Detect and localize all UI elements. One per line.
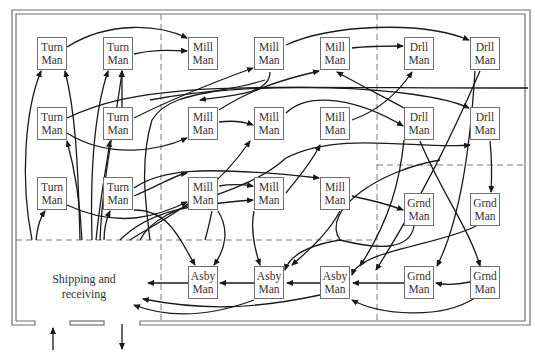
machine-type-label: Turn xyxy=(107,111,129,124)
machine-operator-label: Man xyxy=(258,194,279,207)
machine-type-label: Mill xyxy=(193,181,213,194)
machine-box-t6: TurnMan xyxy=(103,177,133,210)
machine-type-label: Asby xyxy=(323,270,347,283)
machine-box-m8: MillMan xyxy=(254,177,284,210)
shipping-receiving-label-line1: Shipping and xyxy=(52,272,116,286)
machine-operator-label: Man xyxy=(324,54,345,67)
machine-box-m7: MillMan xyxy=(188,177,218,210)
machine-type-label: Asby xyxy=(191,270,215,283)
machine-operator-label: Man xyxy=(258,124,279,137)
machine-type-label: Drll xyxy=(476,41,495,54)
machine-box-m6: MillMan xyxy=(320,107,350,140)
machine-operator-label: Man xyxy=(41,54,62,67)
dock-arrows xyxy=(53,324,122,350)
machine-operator-label: Man xyxy=(408,124,429,137)
machine-box-d2: DrllMan xyxy=(470,37,500,70)
machine-box-t1: TurnMan xyxy=(37,37,67,70)
machine-type-label: Turn xyxy=(107,181,129,194)
machine-box-t2: TurnMan xyxy=(103,37,133,70)
machine-box-d4: DrllMan xyxy=(470,107,500,140)
machine-type-label: Mill xyxy=(325,111,345,124)
machine-type-label: Mill xyxy=(325,181,345,194)
machine-type-label: Grnd xyxy=(407,197,431,210)
machine-box-t4: TurnMan xyxy=(103,107,133,140)
machine-box-a3: AsbyMan xyxy=(320,266,350,299)
machine-operator-label: Man xyxy=(107,54,128,67)
machine-box-g2: GrndMan xyxy=(470,193,500,226)
machine-box-g1: GrndMan xyxy=(404,193,434,226)
machine-operator-label: Man xyxy=(324,124,345,137)
machine-box-g4: GrndMan xyxy=(470,266,500,299)
machine-type-label: Drll xyxy=(476,111,495,124)
machine-box-m2: MillMan xyxy=(254,37,284,70)
machine-operator-label: Man xyxy=(474,54,495,67)
machine-type-label: Mill xyxy=(193,41,213,54)
machine-operator-label: Man xyxy=(474,283,495,296)
machine-box-m1: MillMan xyxy=(188,37,218,70)
machine-operator-label: Man xyxy=(324,283,345,296)
shipping-receiving-label-line2: receiving xyxy=(62,287,107,301)
machine-type-label: Turn xyxy=(41,111,63,124)
machine-type-label: Turn xyxy=(41,41,63,54)
machine-type-label: Mill xyxy=(259,41,279,54)
machine-operator-label: Man xyxy=(192,124,213,137)
machine-box-a2: AsbyMan xyxy=(254,266,284,299)
machine-type-label: Drll xyxy=(410,41,429,54)
machine-type-label: Grnd xyxy=(407,270,431,283)
machine-box-d3: DrllMan xyxy=(404,107,434,140)
machine-type-label: Mill xyxy=(325,41,345,54)
machine-operator-label: Man xyxy=(408,210,429,223)
machine-type-label: Turn xyxy=(107,41,129,54)
machine-operator-label: Man xyxy=(324,194,345,207)
machine-type-label: Grnd xyxy=(473,197,497,210)
machine-box-t3: TurnMan xyxy=(37,107,67,140)
machine-operator-label: Man xyxy=(474,124,495,137)
machine-operator-label: Man xyxy=(408,283,429,296)
machine-type-label: Drll xyxy=(410,111,429,124)
machine-operator-label: Man xyxy=(258,283,279,296)
machine-operator-label: Man xyxy=(107,124,128,137)
machine-box-t5: TurnMan xyxy=(37,177,67,210)
machine-operator-label: Man xyxy=(41,194,62,207)
machine-box-d1: DrllMan xyxy=(404,37,434,70)
machine-operator-label: Man xyxy=(192,283,213,296)
machine-box-m9: MillMan xyxy=(320,177,350,210)
machine-type-label: Mill xyxy=(193,111,213,124)
machine-type-label: Mill xyxy=(259,111,279,124)
machine-box-m5: MillMan xyxy=(254,107,284,140)
machine-operator-label: Man xyxy=(408,54,429,67)
machine-type-label: Mill xyxy=(259,181,279,194)
machine-operator-label: Man xyxy=(474,210,495,223)
machine-box-a1: AsbyMan xyxy=(188,266,218,299)
machine-operator-label: Man xyxy=(192,54,213,67)
machine-operator-label: Man xyxy=(107,194,128,207)
machine-box-g3: GrndMan xyxy=(404,266,434,299)
machine-type-label: Turn xyxy=(41,181,63,194)
machine-box-m4: MillMan xyxy=(188,107,218,140)
machine-operator-label: Man xyxy=(41,124,62,137)
machine-type-label: Grnd xyxy=(473,270,497,283)
machine-operator-label: Man xyxy=(258,54,279,67)
machine-box-m3: MillMan xyxy=(320,37,350,70)
machine-type-label: Asby xyxy=(257,270,281,283)
machine-operator-label: Man xyxy=(192,194,213,207)
